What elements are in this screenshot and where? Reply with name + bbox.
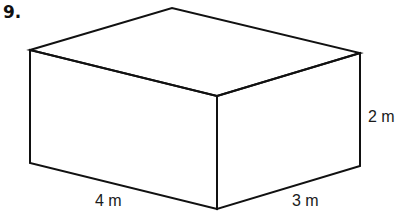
side-face bbox=[217, 53, 360, 209]
front-face bbox=[30, 50, 217, 209]
top-face bbox=[30, 8, 360, 96]
rectangular-prism-diagram bbox=[0, 0, 402, 213]
width-label: 3 m bbox=[292, 192, 319, 210]
height-label: 2 m bbox=[368, 108, 395, 126]
length-label: 4 m bbox=[95, 192, 122, 210]
